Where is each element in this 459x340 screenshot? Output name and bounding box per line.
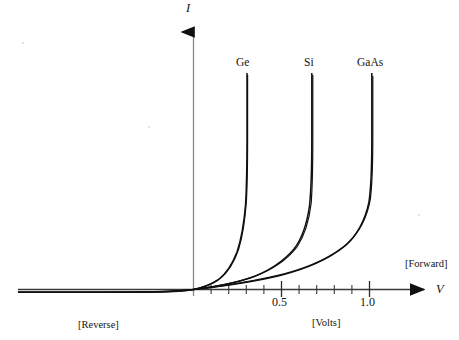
horizontal-axis-label: V — [436, 283, 444, 296]
curve-ge — [18, 73, 248, 292]
plot-canvas — [0, 0, 459, 340]
volts-units-label: [Volts] — [312, 318, 340, 329]
scan-speck — [22, 42, 24, 44]
x-tick-label-1-0: 1.0 — [360, 296, 375, 308]
curve-label-si: Si — [304, 57, 314, 69]
curve-gaas — [18, 73, 373, 292]
scan-speck — [148, 126, 150, 128]
vertical-axis-label: I — [186, 2, 190, 15]
curve-si — [18, 73, 313, 292]
forward-region-label: [Forward] — [405, 259, 448, 270]
diode-iv-characteristic-figure: Ge Si GaAs I V 0.5 1.0 [Forward] [Revers… — [0, 0, 459, 340]
x-tick-label-0-5: 0.5 — [272, 296, 287, 308]
curve-label-ge: Ge — [236, 57, 249, 69]
scan-speck — [418, 214, 420, 216]
reverse-region-label: [Reverse] — [78, 320, 119, 331]
curve-label-gaas: GaAs — [357, 57, 383, 69]
